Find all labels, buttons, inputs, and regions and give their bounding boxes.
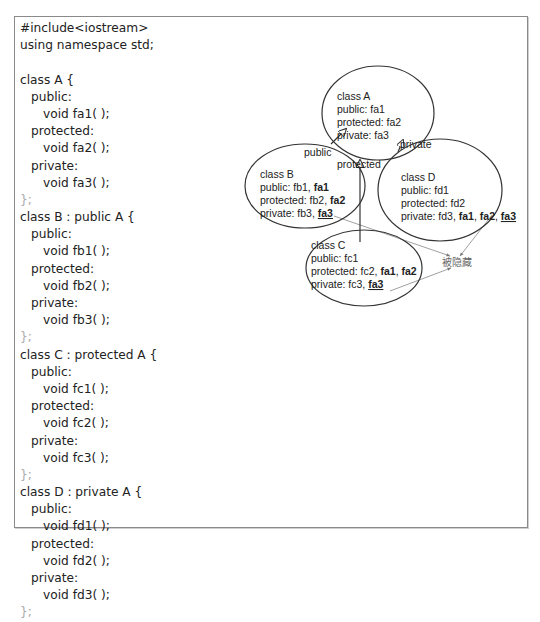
class-c-private: private: fc3, fa3 [311, 278, 384, 290]
class-d-title: class D [401, 171, 436, 183]
class-c-public: public: fc1 [311, 252, 358, 264]
class-d-private: private: fd3, fa1, fa2, fa3 [401, 210, 516, 222]
class-c-protected: protected: fc2, fa1, fa2 [311, 265, 417, 277]
code-line: private: [20, 570, 157, 587]
class-a-protected: protected: fa2 [337, 116, 401, 128]
class-a-title: class A [337, 90, 370, 102]
class-c-title: class C [311, 239, 346, 251]
class-a-private: private: fa3 [337, 129, 389, 141]
class-b-protected: protected: fb2, fa2 [260, 194, 345, 206]
class-b-private: private: fb3, fa3 [260, 207, 333, 219]
edge-label-public: public [304, 146, 331, 158]
class-a-public: public: fa1 [337, 103, 385, 115]
edge-label-private: private [400, 138, 432, 150]
code-line-close: }; [20, 604, 157, 621]
edge-label-protected: protected [337, 158, 381, 170]
class-b-public: public: fb1, fa1 [260, 181, 329, 193]
code-line: void fd3( ); [20, 587, 157, 604]
class-d-protected: protected: fd2 [401, 197, 465, 209]
class-b-title: class B [260, 168, 294, 180]
code-line: void fd2( ); [20, 553, 157, 570]
hidden-label: 被隐藏 [442, 256, 472, 268]
class-d-public: public: fd1 [401, 184, 449, 196]
